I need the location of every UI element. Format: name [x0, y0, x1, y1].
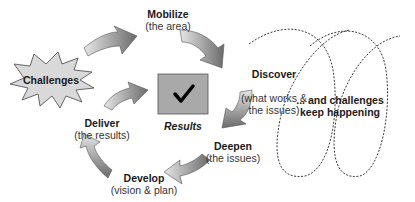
- arrow-to-discover: [180, 30, 224, 68]
- stage-deepen: Deepen (the issues): [198, 140, 268, 164]
- stage-subtitle: (the results): [62, 129, 142, 141]
- stage-title: Deepen: [198, 140, 268, 152]
- results-label: Results: [150, 120, 216, 132]
- results-box: [158, 74, 208, 114]
- stage-subtitle: (the area): [128, 20, 208, 32]
- stage-title: Deliver: [62, 117, 142, 129]
- stage-title: Develop: [104, 172, 184, 184]
- arrow-to-results: [104, 82, 148, 110]
- loop-caption: ... and challenges keep happening: [285, 94, 395, 118]
- stage-mobilize: Mobilize (the area): [128, 8, 208, 32]
- stage-deliver: Deliver (the results): [62, 117, 142, 141]
- stage-title: Discover: [228, 68, 320, 80]
- stage-subtitle: (vision & plan): [104, 184, 184, 196]
- stage-develop: Develop (vision & plan): [104, 172, 184, 196]
- stage-subtitle: (the issues): [198, 152, 268, 164]
- challenges-label: Challenges: [18, 74, 84, 86]
- stage-title: Mobilize: [128, 8, 208, 20]
